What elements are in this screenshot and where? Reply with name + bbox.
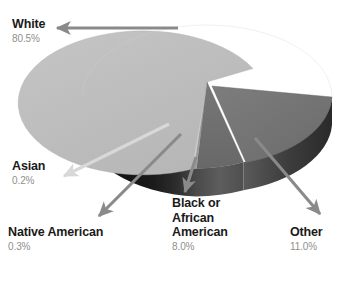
pie-label-black-african-american-percent: 8.0% xyxy=(172,241,228,253)
pie-label-native-american: Native American 0.3% xyxy=(8,226,103,253)
pie-label-black-african-american-line1: Black or xyxy=(172,196,228,211)
pie-chart-figure: White 80.5% Asian 0.2% Native American 0… xyxy=(0,0,360,282)
pie-label-asian-title: Asian xyxy=(12,160,45,174)
pie-label-native-american-title: Native American xyxy=(8,226,103,240)
pie-label-white: White 80.5% xyxy=(12,18,45,45)
pie-label-white-percent: 80.5% xyxy=(12,33,45,45)
pie-label-other-percent: 11.0% xyxy=(290,241,323,253)
pie-label-asian: Asian 0.2% xyxy=(12,160,45,187)
pie-label-black-african-american-line2: African xyxy=(172,211,228,226)
pie-label-native-american-percent: 0.3% xyxy=(8,241,103,253)
pie-label-white-title: White xyxy=(12,18,45,32)
pie-label-other: Other 11.0% xyxy=(290,226,323,253)
pie-label-other-title: Other xyxy=(290,226,323,240)
pie-label-black-african-american-line3: American xyxy=(172,225,228,240)
pie-label-black-african-american: Black or African American 8.0% xyxy=(172,196,228,253)
pie-label-asian-percent: 0.2% xyxy=(12,175,45,187)
